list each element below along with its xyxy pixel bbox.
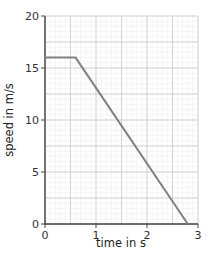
y-tick-label: 20 — [25, 10, 39, 23]
axis-ticks: 012305101520 — [25, 10, 202, 242]
y-tick-label: 10 — [25, 114, 39, 127]
x-tick-label: 0 — [42, 229, 49, 242]
x-tick-label: 3 — [195, 229, 202, 242]
y-tick-label: 0 — [32, 218, 39, 231]
speed-time-chart: 012305101520 time in s speed in m/s — [0, 0, 210, 262]
y-axis-title: speed in m/s — [2, 83, 16, 157]
y-tick-label: 15 — [25, 62, 39, 75]
x-axis-title: time in s — [96, 236, 146, 250]
y-tick-label: 5 — [32, 166, 39, 179]
